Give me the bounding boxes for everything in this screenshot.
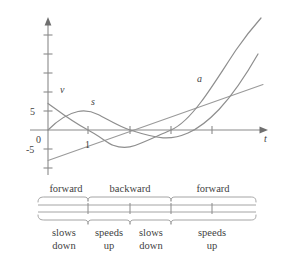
upper-brace-group	[38, 197, 256, 202]
speed-label-0-line2: down	[52, 240, 76, 251]
timeline-rule	[38, 203, 256, 214]
y-label-neg5: -5	[26, 144, 34, 155]
lower-brace-speeds-up-2	[171, 215, 256, 224]
speed-label-3-line2: up	[207, 240, 218, 251]
phase-labels: forward backward forward	[49, 183, 230, 194]
upper-brace-backward	[88, 197, 171, 201]
phase-label-0: forward	[49, 183, 83, 194]
speed-label-2-line2: down	[139, 240, 163, 251]
graph-curves	[48, 18, 263, 160]
label-t-axis: t	[264, 133, 267, 144]
lower-brace-slows-down-1	[38, 215, 88, 224]
upper-brace-forward-1	[38, 197, 88, 202]
phase-label-1: backward	[110, 183, 152, 194]
speed-label-3-line1: speeds	[198, 227, 226, 238]
speed-label-1-line2: up	[104, 240, 115, 251]
speed-change-labels: slows down speeds up slows down speeds u…	[52, 227, 226, 251]
speed-label-2-line1: slows	[139, 227, 163, 238]
phase-label-2: forward	[196, 183, 230, 194]
label-s: s	[91, 96, 95, 107]
speed-label-1-line1: speeds	[95, 227, 123, 238]
speed-label-0-line1: slows	[52, 227, 76, 238]
lower-brace-slows-down-2	[130, 220, 171, 224]
upper-brace-forward-2	[171, 197, 256, 202]
label-a: a	[197, 73, 202, 84]
lower-brace-speeds-up-1	[88, 220, 130, 224]
label-v: v	[60, 84, 65, 95]
lower-brace-group	[38, 215, 256, 224]
y-axis-arrowhead	[45, 17, 52, 26]
y-label-5: 5	[30, 106, 35, 117]
x-label-1: 1	[85, 139, 90, 150]
motion-figure: 5 0 -5 1 v s a t forward backward forwar…	[0, 0, 283, 258]
motion-graph-svg: 5 0 -5 1 v s a t forward backward forwar…	[0, 0, 283, 258]
y-label-0: 0	[36, 134, 41, 145]
velocity-curve-v	[48, 18, 261, 147]
